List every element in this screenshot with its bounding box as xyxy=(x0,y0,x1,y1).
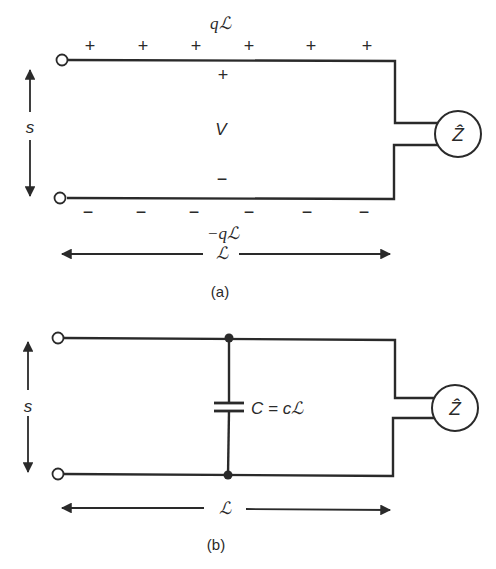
length-label: ℒ xyxy=(219,499,232,518)
impedance-label: Ẑ xyxy=(448,398,462,419)
minus-sign: − xyxy=(244,202,255,222)
minus-sign: − xyxy=(359,202,370,222)
top-charge-label: qℒ xyxy=(210,14,232,33)
minus-sign: − xyxy=(136,202,147,222)
capacitor-lead-bottom xyxy=(228,411,229,475)
figure-b: C = cℒ Ẑ s ℒ (b) xyxy=(24,333,478,554)
top-conductor xyxy=(67,60,440,123)
plus-sign: + xyxy=(138,36,149,56)
capacitor-label: C = cℒ xyxy=(251,399,304,418)
inner-plus: + xyxy=(218,65,229,85)
inner-minus: − xyxy=(217,169,228,189)
terminal-top xyxy=(57,55,68,66)
caption-b: (b) xyxy=(207,536,225,553)
terminal-bottom xyxy=(55,193,66,204)
plus-sign: + xyxy=(362,36,373,56)
voltage-label: V xyxy=(215,120,228,139)
junction-dot-bottom xyxy=(224,471,233,480)
terminal-top xyxy=(53,333,64,344)
junction-dot-top xyxy=(225,334,234,343)
bottom-conductor xyxy=(63,418,440,476)
plus-signs-row: + + + + + + xyxy=(85,36,373,56)
minus-signs-row: − − − − − − xyxy=(83,202,370,222)
length-label: ℒ xyxy=(216,244,229,263)
minus-sign: − xyxy=(189,202,200,222)
caption-a: (a) xyxy=(211,283,229,300)
minus-sign: − xyxy=(302,202,313,222)
minus-sign: − xyxy=(83,202,94,222)
separation-label: s xyxy=(26,118,35,137)
impedance-label: Ẑ xyxy=(451,124,465,145)
figure-a: qℒ + + + + + + Ẑ + V − s − − xyxy=(26,14,481,300)
bottom-conductor xyxy=(67,145,440,199)
plus-sign: + xyxy=(244,36,255,56)
terminal-bottom xyxy=(53,469,64,480)
length-arrow-right xyxy=(246,509,390,510)
plus-sign: + xyxy=(306,36,317,56)
transmission-line-diagram: qℒ + + + + + + Ẑ + V − s − − xyxy=(0,0,496,569)
plus-sign: + xyxy=(85,36,96,56)
top-conductor xyxy=(64,338,440,398)
separation-label: s xyxy=(24,397,33,416)
bottom-charge-label: −qℒ xyxy=(207,224,240,243)
plus-sign: + xyxy=(191,36,202,56)
